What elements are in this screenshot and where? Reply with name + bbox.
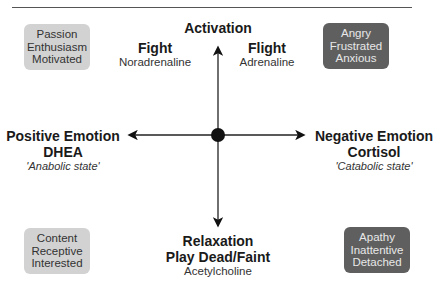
negative-emotion-group: Negative Emotion Cortisol 'Catabolic sta… [312,128,436,173]
qbl-line-1: Content [37,232,77,245]
qbr-line-1: Apathy [359,231,395,244]
qtl-line-1: Passion [37,28,78,41]
qtl-line-2: Enthusiasm [27,41,87,54]
fight-note: Noradrenaline [110,56,200,69]
quadrant-bottom-right-box: Apathy Inattentive Detached [344,227,410,273]
flight-title: Flight [226,40,308,56]
play-dead-label: Play Dead/Faint [158,249,278,265]
positive-emotion-group: Positive Emotion DHEA 'Anabolic state' [4,128,122,173]
qtr-line-3: Anxious [336,52,377,65]
qtr-line-2: Frustrated [330,40,382,53]
quadrant-top-left-box: Passion Enthusiasm Motivated [24,24,90,70]
quadrant-top-right-box: Angry Frustrated Anxious [323,23,389,69]
flight-label-group: Flight Adrenaline [226,40,308,69]
anabolic-state-note: 'Anabolic state' [4,160,122,173]
negative-emotion-title: Negative Emotion [312,128,436,144]
qbl-line-3: Interested [31,257,82,270]
qbr-line-2: Inattentive [350,244,403,257]
quadrant-bottom-left-box: Content Receptive Interested [24,228,90,274]
center-dot [211,128,225,142]
qbr-line-3: Detached [352,256,401,269]
dhea-label: DHEA [4,144,122,160]
positive-emotion-title: Positive Emotion [4,128,122,144]
qtr-line-1: Angry [341,27,371,40]
relaxation-group: Relaxation Play Dead/Faint Acetylcholine [158,233,278,278]
activation-label: Activation [168,20,268,36]
catabolic-state-note: 'Catabolic state' [312,160,436,173]
fight-title: Fight [110,40,200,56]
acetylcholine-note: Acetylcholine [158,265,278,278]
relaxation-title: Relaxation [158,233,278,249]
cortisol-label: Cortisol [312,144,436,160]
flight-note: Adrenaline [226,56,308,69]
qtl-line-3: Motivated [32,53,82,66]
fight-label-group: Fight Noradrenaline [110,40,200,69]
qbl-line-2: Receptive [31,245,82,258]
